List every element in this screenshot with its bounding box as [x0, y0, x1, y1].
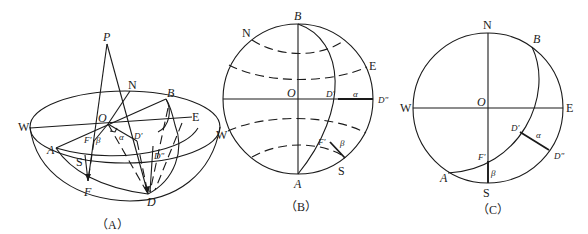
label-s: S	[338, 164, 345, 178]
label-beta: β	[339, 138, 345, 148]
label-w: W	[18, 120, 30, 134]
label-f-prime: F'	[83, 135, 92, 145]
label-d: D	[146, 195, 156, 209]
label-e: E	[566, 101, 573, 115]
caption-a: （A）	[96, 218, 129, 232]
label-d-double-prime: D"	[553, 151, 564, 161]
label-o: O	[477, 95, 486, 109]
label-f-prime: F'	[317, 137, 326, 147]
label-alpha: α	[536, 130, 541, 140]
label-alpha: α	[353, 89, 358, 99]
label-n: N	[242, 26, 251, 40]
label-d-prime: D'	[510, 123, 520, 133]
label-o: O	[287, 86, 296, 100]
label-a: A	[293, 177, 302, 191]
label-n: N	[483, 18, 492, 32]
caption-c: （C）	[477, 203, 509, 217]
label-w: W	[400, 101, 412, 115]
label-a: A	[46, 143, 55, 157]
label-a: A	[439, 171, 448, 185]
label-w: W	[216, 128, 228, 142]
label-alpha: α	[119, 132, 124, 142]
label-b: B	[167, 86, 175, 100]
label-b: B	[533, 32, 541, 46]
figure-b-stereonet: B N E O D' α D" W F' β A S （B）	[216, 9, 388, 214]
inner-trace-arc	[56, 128, 198, 156]
label-s: S	[483, 186, 490, 200]
label-beta: β	[95, 135, 101, 145]
great-circle-plane	[56, 99, 179, 194]
label-d-prime: D'	[325, 89, 335, 99]
label-f: F	[83, 185, 92, 199]
stereonet-figure: P N B W O E F' β α D' A S D" F D （A） B N…	[0, 0, 588, 234]
label-n: N	[128, 78, 137, 92]
label-s: S	[76, 155, 83, 169]
label-p: P	[102, 30, 111, 44]
label-o: O	[98, 111, 107, 125]
label-d-double-prime: D"	[153, 151, 164, 161]
figure-c-stereonet: N B W O E D' α D" F' A β S （C）	[400, 18, 573, 217]
dprime-d-dashed	[137, 141, 148, 194]
strike-line	[56, 99, 166, 148]
p-to-d-line	[107, 44, 148, 194]
label-beta: β	[490, 168, 496, 178]
label-b: B	[294, 9, 302, 23]
label-d-double-prime: D"	[377, 95, 388, 105]
label-e: E	[369, 59, 376, 73]
great-circle-ab	[448, 47, 539, 173]
small-circle-3	[228, 118, 366, 133]
alpha-segment	[520, 132, 549, 150]
label-d-prime: D'	[133, 131, 143, 141]
label-e: E	[192, 110, 199, 124]
label-f-prime: F'	[477, 152, 486, 162]
caption-b: （B）	[285, 200, 317, 214]
figure-a-hemisphere: P N B W O E F' β α D' A S D" F D （A）	[18, 30, 220, 232]
o-n-line	[108, 91, 130, 124]
